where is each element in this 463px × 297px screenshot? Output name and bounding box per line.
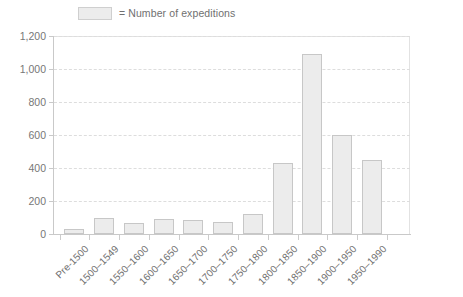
x-axis-tick: [60, 235, 61, 240]
bar-slot: [149, 36, 179, 234]
bar-slot: [179, 36, 209, 234]
legend-swatch-icon: [78, 7, 112, 20]
bar[interactable]: [243, 214, 263, 234]
bar[interactable]: [154, 219, 174, 234]
legend-label: = Number of expeditions: [119, 7, 235, 19]
y-axis-tick: [49, 234, 54, 235]
x-axis-tick: [208, 235, 209, 240]
bar[interactable]: [124, 223, 144, 234]
bar[interactable]: [213, 222, 233, 234]
x-axis-tick: [357, 235, 358, 240]
bar[interactable]: [302, 54, 322, 234]
x-axis-tick: [298, 235, 299, 240]
x-axis-tick: [149, 235, 150, 240]
y-axis-label: 200: [0, 195, 46, 207]
expeditions-bar-chart: = Number of expeditions 02004006008001,0…: [0, 0, 463, 297]
bar[interactable]: [94, 218, 114, 235]
chart-legend: = Number of expeditions: [78, 5, 235, 21]
bar-slot: [208, 36, 238, 234]
bar[interactable]: [183, 220, 203, 234]
bar-slot: [89, 36, 119, 234]
x-axis-tick: [387, 235, 388, 240]
bar[interactable]: [64, 229, 84, 234]
y-axis-label: 1,200: [0, 30, 46, 42]
bar-slot: [238, 36, 268, 234]
x-axis-tick: [268, 235, 269, 240]
bar[interactable]: [332, 135, 352, 234]
y-axis-label: 1,000: [0, 63, 46, 75]
x-axis-tick: [238, 235, 239, 240]
bar-slot: [357, 36, 387, 234]
x-axis-tick: [89, 235, 90, 240]
x-axis-tick: [327, 235, 328, 240]
y-axis-label: 600: [0, 129, 46, 141]
x-axis-tick: [119, 235, 120, 240]
y-axis-label: 0: [0, 228, 46, 240]
bar[interactable]: [362, 160, 382, 234]
bar-slot: [60, 36, 90, 234]
bar[interactable]: [273, 163, 293, 234]
y-axis-label: 400: [0, 162, 46, 174]
bar-slot: [268, 36, 298, 234]
bar-slot: [298, 36, 328, 234]
y-axis-label: 800: [0, 96, 46, 108]
bars-group: [53, 36, 410, 234]
x-axis-tick: [179, 235, 180, 240]
bar-slot: [119, 36, 149, 234]
bar-slot: [327, 36, 357, 234]
